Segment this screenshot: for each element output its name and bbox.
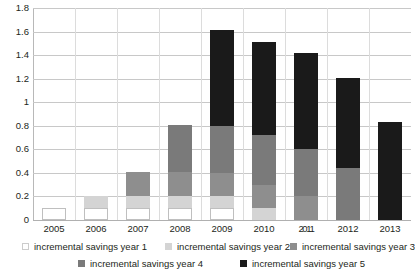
bar-segment[interactable] [210, 30, 234, 125]
bar-group[interactable] [126, 172, 150, 220]
legend-item-year-3[interactable]: incremental savings year 3 [290, 242, 415, 252]
bar-segment[interactable] [252, 185, 276, 209]
y-axis-tick-label: 0 [3, 215, 29, 225]
bar-segment[interactable] [294, 196, 318, 220]
legend-item-year-2[interactable]: incremental savings year 2 [165, 242, 290, 252]
bar-group[interactable] [168, 125, 192, 220]
bar-segment[interactable] [210, 126, 234, 173]
y-axis-tick-label: 0.8 [3, 121, 29, 131]
bar-segment[interactable] [168, 196, 192, 208]
bar-segment[interactable] [210, 208, 234, 220]
legend-label-year-5: incremental savings year 5 [252, 259, 365, 269]
bar-group[interactable] [378, 122, 402, 220]
bar-group[interactable] [210, 30, 234, 220]
y-axis-tick-label: 1.8 [3, 3, 29, 13]
legend-label-year-2: incremental savings year 2 [177, 242, 290, 252]
y-axis-tick-label: 0.6 [3, 145, 29, 155]
legend-row-bottom: incremental savings year 4 incremental s… [0, 255, 415, 272]
x-axis-tick-label: 2011 [284, 224, 328, 234]
x-axis-tick-label: 2009 [200, 224, 244, 234]
legend-swatch-year-4-icon [78, 260, 85, 267]
bar-segment[interactable] [294, 149, 318, 196]
bar-group[interactable] [252, 42, 276, 220]
x-axis-tick-label: 2012 [326, 224, 370, 234]
legend-swatch-year-3-icon [290, 243, 297, 250]
bar-segment[interactable] [294, 53, 318, 150]
bar-segment[interactable] [126, 208, 150, 220]
bar-segment[interactable] [336, 168, 360, 220]
y-axis-tick-label: 1.2 [3, 74, 29, 84]
x-axis-tick-label: 2007 [116, 224, 160, 234]
bar-segment[interactable] [252, 208, 276, 220]
legend-item-year-4[interactable]: incremental savings year 4 [78, 259, 240, 269]
gridline [33, 220, 411, 221]
bar-group[interactable] [84, 196, 108, 220]
plot-area [33, 8, 411, 220]
legend-swatch-year-2-icon [165, 243, 172, 250]
legend-label-year-1: incremental savings year 1 [34, 242, 147, 252]
legend-item-year-5[interactable]: incremental savings year 5 [240, 259, 365, 269]
x-axis-tick-label: 2010 [242, 224, 286, 234]
bar-segment[interactable] [126, 196, 150, 208]
y-axis-tick-label: 1.4 [3, 50, 29, 60]
bar-group[interactable] [294, 53, 318, 220]
bar-segment[interactable] [126, 172, 150, 197]
y-axis-tick-label: 1.6 [3, 27, 29, 37]
legend-label-year-4: incremental savings year 4 [90, 259, 203, 269]
bar-segment[interactable] [252, 135, 276, 184]
legend-row-top: incremental savings year 1 incremental s… [0, 238, 415, 255]
bar-segment[interactable] [378, 122, 402, 220]
bar-segment[interactable] [168, 208, 192, 220]
bar-segment[interactable] [84, 196, 108, 208]
bar-group[interactable] [336, 78, 360, 221]
bar-group[interactable] [42, 208, 66, 220]
stacked-bar-chart: 00.20.40.60.811.21.41.61.8 2005200620072… [0, 0, 415, 276]
y-axis-tick-label: 0.4 [3, 168, 29, 178]
x-axis-tick-label: 2005 [32, 224, 76, 234]
bar-segment[interactable] [210, 173, 234, 197]
y-axis-tick-label: 0.2 [3, 192, 29, 202]
legend-item-year-1[interactable]: incremental savings year 1 [22, 242, 165, 252]
x-axis-tick-label: 2006 [74, 224, 118, 234]
bars-layer [33, 8, 411, 220]
bar-segment[interactable] [84, 208, 108, 220]
bar-segment[interactable] [252, 42, 276, 135]
bar-segment[interactable] [336, 78, 360, 169]
legend-swatch-year-1-icon [22, 243, 29, 250]
bar-segment[interactable] [42, 208, 66, 220]
bar-segment[interactable] [168, 125, 192, 172]
bar-segment[interactable] [168, 172, 192, 197]
bar-segment[interactable] [210, 196, 234, 208]
legend-label-year-3: incremental savings year 3 [302, 242, 415, 252]
y-axis-tick-label: 1 [3, 97, 29, 107]
x-axis-tick-label: 2013 [368, 224, 412, 234]
legend-swatch-year-5-icon [240, 260, 247, 267]
chart-legend: incremental savings year 1 incremental s… [0, 238, 415, 272]
x-axis-tick-label: 2008 [158, 224, 202, 234]
